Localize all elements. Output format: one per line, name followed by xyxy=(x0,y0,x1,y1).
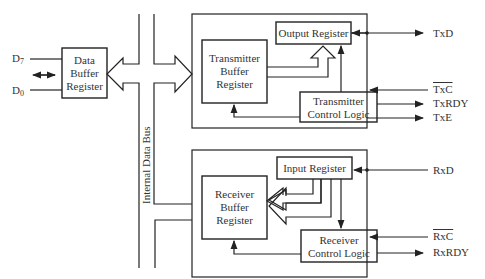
d0-label: D0 xyxy=(12,84,24,100)
txd-signal: TxD xyxy=(433,27,453,40)
receiver-control-logic: Receiver Control Logic xyxy=(301,234,377,260)
input-register: Input Register xyxy=(277,162,352,175)
block-diagram-lines xyxy=(0,0,485,279)
receiver-buffer-register: Receiver Buffer Register xyxy=(202,188,267,227)
rxd-signal: RxD xyxy=(433,164,454,177)
txc-signal: TxC xyxy=(433,83,453,96)
data-buffer-register: Data Buffer Register xyxy=(62,54,107,93)
output-register: Output Register xyxy=(276,27,351,40)
txe-signal: TxE xyxy=(433,111,452,124)
transmitter-buffer-register: Transmitter Buffer Register xyxy=(202,52,267,91)
txrdy-signal: TxRDY xyxy=(433,97,468,110)
d7-label: D7 xyxy=(12,52,24,68)
transmitter-control-logic: Transmitter Control Logic xyxy=(300,95,377,121)
rxrdy-signal: RxRDY xyxy=(433,246,469,259)
internal-data-bus-label: Internal Data Bus xyxy=(140,126,152,204)
rxc-signal: RxC xyxy=(433,230,453,243)
